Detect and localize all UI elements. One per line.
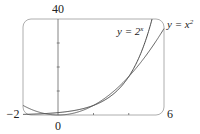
plot-frame [23, 19, 164, 115]
x-min-label: −2 [7, 107, 20, 121]
y-max-label: 40 [52, 2, 64, 16]
chart: 40 −2 0 6 y = 2x y = x2 [0, 0, 200, 134]
x-zero-label: 0 [55, 119, 61, 133]
label-x-squared: y = x2 [166, 18, 194, 30]
curve-x-squared [23, 29, 164, 115]
x-max-label: 6 [167, 107, 173, 121]
label-2-power-x: y = 2x [116, 25, 144, 37]
